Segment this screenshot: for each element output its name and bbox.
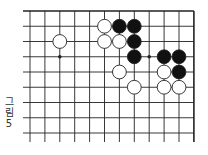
black-stone	[172, 65, 186, 79]
black-stone	[113, 19, 127, 33]
go-board	[0, 0, 208, 155]
black-stone	[127, 35, 141, 49]
white-stone	[127, 80, 141, 94]
black-stone	[172, 50, 186, 64]
white-stone	[113, 35, 127, 49]
white-stone	[157, 65, 171, 79]
black-stone	[157, 50, 171, 64]
black-stone	[127, 19, 141, 33]
caption-char-3: 5	[3, 118, 15, 129]
white-stone	[53, 35, 67, 49]
caption-char-1: 그	[3, 96, 15, 107]
figure-caption: 그 림 5	[3, 96, 15, 129]
star-point	[58, 55, 62, 59]
white-stone	[157, 80, 171, 94]
white-stone	[98, 35, 112, 49]
caption-char-2: 림	[3, 107, 15, 118]
white-stone	[113, 65, 127, 79]
black-stone	[127, 50, 141, 64]
white-stone	[172, 80, 186, 94]
white-stone	[98, 19, 112, 33]
star-point	[147, 55, 151, 59]
